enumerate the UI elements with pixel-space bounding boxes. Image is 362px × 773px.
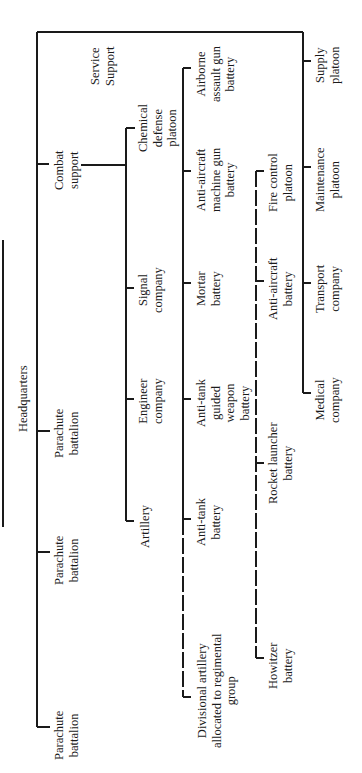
airborne-assault-gun-battery-label: Airborne assault gun battery [194, 46, 238, 102]
supply-platoon-label: Supply platoon [313, 47, 342, 85]
medical-company-label: Medical company [313, 377, 342, 423]
rocket-launcher-battery-label: Rocket launcher battery [266, 422, 295, 504]
aa-machine-gun-battery-label: Anti-aircraft machine gun battery [194, 148, 238, 212]
mortar-battery-label: Mortar battery [194, 271, 223, 306]
anti-tank-battery-label: Anti-tank battery [194, 498, 223, 546]
atgw-battery-label: Anti-tank guided weapon battery [194, 379, 252, 427]
engineer-company-label: Engineer company [136, 378, 165, 424]
divisional-artillery-label: Divisional artillery allocated to regime… [195, 633, 239, 748]
fire-control-platoon-label: Fire control platoon [266, 153, 295, 212]
parachute-battalion-label: Parachute battalion [52, 536, 81, 585]
signal-company-label: Signal company [136, 267, 165, 313]
maintenance-platoon-label: Maintenance platoon [313, 147, 342, 212]
chemical-defense-platoon-label: Chemical defense platoon [136, 104, 180, 152]
transport-company-label: Transport company [313, 265, 342, 313]
anti-aircraft-battery-label: Anti-aircraft battery [266, 258, 295, 320]
parachute-battalion-label: Parachute battalion [52, 409, 81, 458]
combat-support-label: Combat support [52, 150, 81, 190]
service-support-label: Service Support [88, 46, 117, 86]
org-chart-lines [0, 0, 362, 773]
howitzer-battery-label: Howitzer battery [266, 642, 295, 689]
artillery-label: Artillery [138, 505, 153, 548]
headquarters-label: Headquarters [16, 365, 31, 432]
parachute-battalion-label: Parachute battalion [52, 711, 81, 760]
